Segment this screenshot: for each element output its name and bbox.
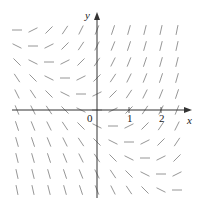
slope-segment bbox=[160, 25, 162, 35]
slope-segment bbox=[157, 156, 166, 160]
slope-segment bbox=[173, 154, 180, 161]
slope-segment bbox=[16, 137, 19, 147]
slope-segment bbox=[79, 169, 83, 178]
slope-segment bbox=[160, 41, 162, 51]
slope-segment bbox=[126, 90, 132, 98]
origin-label: 0 bbox=[87, 113, 93, 124]
slope-segment bbox=[62, 122, 68, 130]
slope-segment bbox=[31, 121, 35, 130]
slope-segment bbox=[110, 74, 116, 82]
slope-segment bbox=[45, 26, 52, 33]
slope-segment bbox=[79, 26, 83, 35]
slope-segment bbox=[125, 156, 134, 160]
slope-segment bbox=[61, 92, 70, 96]
slope-segment bbox=[79, 185, 82, 194]
slope-segment bbox=[173, 172, 182, 176]
slope-segment bbox=[110, 170, 116, 178]
slope-segment bbox=[32, 185, 34, 195]
slope-segment bbox=[111, 58, 115, 67]
slope-segment bbox=[64, 185, 67, 195]
slope-segment bbox=[32, 169, 34, 179]
slope-segment bbox=[143, 57, 146, 66]
slope-segment bbox=[157, 138, 164, 145]
slope-segment bbox=[127, 74, 131, 83]
slope-segment bbox=[63, 153, 67, 162]
y-axis-arrow-icon bbox=[94, 12, 100, 20]
slope-segment bbox=[109, 140, 118, 144]
slope-segment bbox=[125, 170, 132, 177]
slope-segment bbox=[176, 57, 178, 67]
slope-segment bbox=[48, 169, 51, 179]
slope-segment bbox=[174, 138, 180, 146]
slope-segment bbox=[144, 25, 146, 35]
slope-segment bbox=[62, 26, 68, 34]
slope-segment bbox=[47, 122, 51, 131]
slope-segment bbox=[128, 25, 131, 35]
slope-segment bbox=[126, 186, 132, 194]
slope-segment bbox=[111, 41, 115, 50]
slope-segment bbox=[16, 169, 18, 179]
slope-segment bbox=[175, 89, 178, 98]
slope-segment bbox=[160, 57, 163, 67]
slope-segment bbox=[141, 122, 148, 129]
slope-segment bbox=[77, 76, 86, 80]
y-axis-label: y bbox=[85, 10, 90, 21]
slope-segment bbox=[143, 73, 147, 82]
slope-segment bbox=[13, 44, 22, 48]
slope-segment bbox=[77, 58, 84, 65]
slope-segment bbox=[127, 57, 131, 66]
slope-segment bbox=[45, 90, 52, 97]
slope-segment bbox=[109, 90, 116, 97]
slope-segment bbox=[141, 186, 148, 193]
slope-segment bbox=[29, 74, 36, 81]
slope-segment bbox=[32, 153, 35, 163]
direction-field-plot bbox=[0, 0, 201, 202]
slope-segment bbox=[63, 138, 67, 147]
slope-segment bbox=[48, 185, 50, 195]
slope-segment bbox=[176, 25, 178, 35]
slope-segment bbox=[78, 138, 84, 146]
x-axis-label: x bbox=[187, 115, 192, 126]
slope-segment bbox=[159, 89, 163, 98]
x-tick-label-2: 2 bbox=[159, 113, 165, 124]
slope-segment bbox=[16, 185, 18, 195]
slope-segment bbox=[77, 122, 84, 129]
slope-segment bbox=[45, 76, 54, 80]
slope-segment bbox=[111, 186, 115, 195]
slope-segment bbox=[29, 60, 38, 64]
slope-segment bbox=[141, 140, 150, 144]
slope-segment bbox=[127, 41, 130, 50]
slope-segment bbox=[29, 28, 38, 32]
slope-segment bbox=[31, 137, 34, 146]
slope-segment bbox=[45, 44, 54, 48]
slope-segment bbox=[14, 74, 20, 82]
slope-segment bbox=[61, 42, 68, 49]
x-axis-arrow-icon bbox=[184, 107, 192, 113]
slope-segment bbox=[63, 169, 66, 178]
slope-segment bbox=[143, 90, 147, 99]
x-axis bbox=[12, 107, 192, 113]
slope-segment bbox=[16, 153, 18, 163]
slope-segment bbox=[30, 90, 36, 98]
slope-segment bbox=[61, 60, 70, 64]
slope-segment bbox=[141, 172, 150, 176]
slope-segment bbox=[176, 73, 179, 83]
slope-segment bbox=[47, 137, 51, 146]
slope-segment bbox=[13, 58, 20, 65]
slope-segment bbox=[79, 154, 83, 163]
slope-segment bbox=[176, 41, 178, 51]
slope-segment bbox=[111, 25, 114, 34]
slope-segment bbox=[15, 90, 19, 99]
slope-segment bbox=[159, 73, 162, 82]
slope-segment bbox=[78, 42, 84, 50]
slope-segment bbox=[125, 124, 134, 128]
slope-segment bbox=[15, 121, 18, 130]
slope-segment bbox=[144, 41, 147, 51]
slope-segment bbox=[175, 122, 179, 131]
slope-segment bbox=[109, 154, 116, 161]
x-tick-label-1: 1 bbox=[127, 113, 133, 124]
slope-segment bbox=[47, 153, 50, 162]
slope-segment bbox=[157, 188, 166, 192]
